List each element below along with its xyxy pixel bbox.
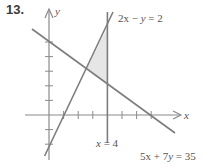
label-x-eq-4: x = 4 <box>95 137 119 149</box>
label-2x-minus-y-eq-2: 2x − y = 2 <box>118 12 163 24</box>
label-5x-plus-7y-eq-35: 5x + 7y = 35 <box>140 150 196 162</box>
line-2x-minus-y-eq-2 <box>45 12 113 156</box>
x-axis-label: x <box>183 109 189 121</box>
y-axis-label: y <box>54 5 60 17</box>
graph: y x 2x − y = 2 x = 4 5x + 7y = 35 <box>0 0 204 164</box>
